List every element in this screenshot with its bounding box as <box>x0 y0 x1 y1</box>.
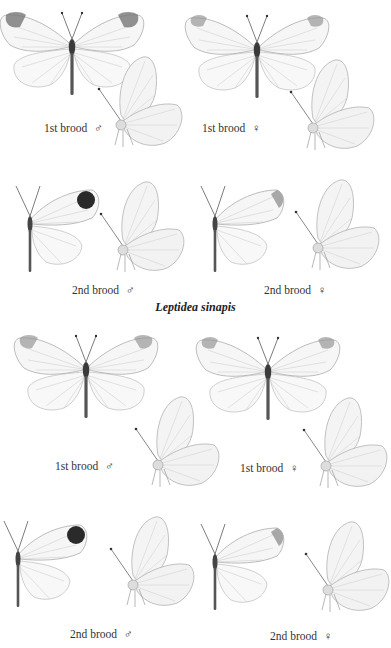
butterfly-lower-2nd-brood-female-dorsal <box>215 518 216 519</box>
male-symbol: ♂ <box>126 284 135 296</box>
butterfly-1st-brood-female-lateral <box>295 58 296 59</box>
label-lower-2nd-brood-female: 2nd brood ♀ <box>270 630 332 642</box>
label-upper-1st-brood-female: 1st brood ♀ <box>202 122 261 134</box>
butterfly-1st-brood-male-dorsal <box>72 5 73 6</box>
butterfly-2nd-brood-male-lateral <box>105 180 106 181</box>
male-symbol: ♂ <box>124 628 133 640</box>
female-symbol: ♀ <box>252 122 261 134</box>
butterfly-1st-brood-female-dorsal <box>257 8 258 9</box>
butterfly-lower-1st-brood-female-dorsal <box>268 330 269 331</box>
butterfly-lower-1st-brood-female-lateral <box>308 396 309 397</box>
label-lower-1st-brood-female: 1st brood ♀ <box>240 462 299 474</box>
butterfly-2nd-brood-female-lateral <box>300 178 301 179</box>
butterfly-lower-2nd-brood-male-lateral <box>115 515 116 516</box>
butterfly-1st-brood-male-lateral <box>103 55 104 56</box>
label-upper-2nd-brood-male: 2nd brood ♂ <box>72 284 134 296</box>
butterfly-2nd-brood-female-dorsal <box>215 180 216 181</box>
male-symbol: ♂ <box>105 460 114 472</box>
species-title: Leptidea sinapis <box>0 300 391 315</box>
label-upper-2nd-brood-female: 2nd brood ♀ <box>264 284 326 296</box>
butterfly-lower-1st-brood-male-dorsal <box>86 328 87 329</box>
butterfly-lower-1st-brood-male-lateral <box>140 395 141 396</box>
male-symbol: ♂ <box>94 122 103 134</box>
label-lower-1st-brood-male: 1st brood ♂ <box>55 460 114 472</box>
female-symbol: ♀ <box>290 462 299 474</box>
label-lower-2nd-brood-male: 2nd brood ♂ <box>70 628 132 640</box>
illustration-plate: 1st brood ♂ 1st brood ♀ 2nd brood ♂ 2nd … <box>0 0 391 648</box>
female-symbol: ♀ <box>324 630 333 642</box>
butterfly-2nd-brood-male-dorsal <box>30 180 31 181</box>
label-upper-1st-brood-male: 1st brood ♂ <box>44 122 103 134</box>
female-symbol: ♀ <box>318 284 327 296</box>
butterfly-lower-2nd-brood-male-dorsal <box>18 515 19 516</box>
butterfly-lower-2nd-brood-female-lateral <box>310 520 311 521</box>
